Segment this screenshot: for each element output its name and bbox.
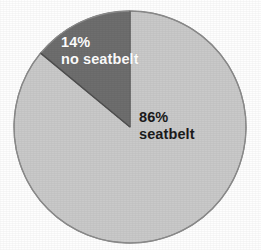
pie-label-no-seatbelt: 14% no seatbelt	[61, 34, 139, 68]
pie-chart-figure: 14% no seatbelt 86% seatbelt	[0, 0, 261, 250]
pie-label-no-seatbelt-percent: 14%	[61, 34, 139, 51]
pie-label-seatbelt-percent: 86%	[139, 109, 195, 126]
pie-label-seatbelt-category: seatbelt	[139, 126, 195, 143]
pie-label-no-seatbelt-category: no seatbelt	[61, 51, 139, 68]
pie-label-seatbelt: 86% seatbelt	[139, 109, 195, 143]
